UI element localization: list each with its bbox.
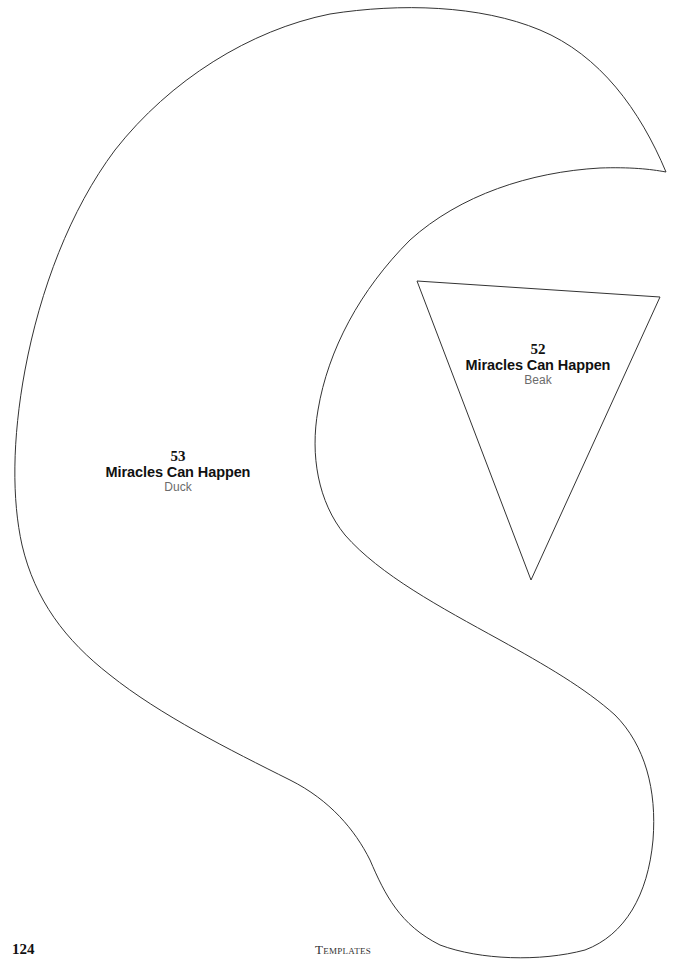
template-piece-name: Duck <box>106 481 251 494</box>
template-number: 52 <box>466 341 611 358</box>
template-number: 53 <box>106 448 251 465</box>
beak-template-outline <box>417 281 660 580</box>
duck-template-label: 53 Miracles Can Happen Duck <box>106 448 251 495</box>
template-piece-name: Beak <box>466 374 611 387</box>
running-footer: Templates <box>315 942 371 958</box>
template-shapes <box>0 0 674 965</box>
page-number: 124 <box>12 941 35 958</box>
template-title: Miracles Can Happen <box>466 358 611 374</box>
beak-template-label: 52 Miracles Can Happen Beak <box>466 341 611 388</box>
template-page: 53 Miracles Can Happen Duck 52 Miracles … <box>0 0 674 965</box>
template-title: Miracles Can Happen <box>106 465 251 481</box>
